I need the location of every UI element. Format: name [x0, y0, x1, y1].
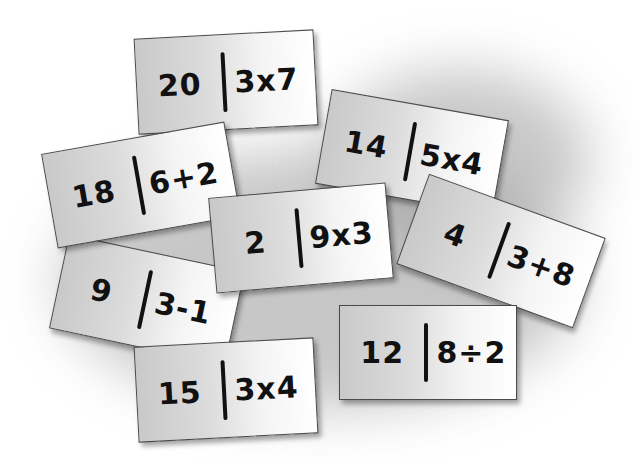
card-value: 18: [47, 168, 140, 218]
math-card[interactable]: 12 8÷2: [339, 305, 517, 400]
math-card[interactable]: 20 3x7: [134, 29, 319, 134]
card-expression: 3x7: [226, 60, 316, 100]
math-card[interactable]: 15 3x4: [134, 337, 319, 442]
card-value: 20: [136, 65, 223, 104]
card-expression: 3+8: [495, 235, 594, 300]
math-card[interactable]: 2 9x3: [208, 182, 394, 293]
card-expression: 3x4: [226, 368, 316, 408]
card-expression: 5x4: [409, 135, 502, 185]
card-value: 14: [321, 119, 411, 168]
card-value: 2: [212, 221, 299, 263]
card-value: 9: [56, 264, 147, 316]
card-expression: 6+2: [138, 152, 234, 202]
card-value: 4: [408, 203, 504, 266]
card-expression: 9x3: [300, 213, 390, 255]
card-expression: 8÷2: [428, 335, 516, 370]
card-value: 12: [340, 335, 424, 370]
card-value: 15: [136, 373, 223, 412]
